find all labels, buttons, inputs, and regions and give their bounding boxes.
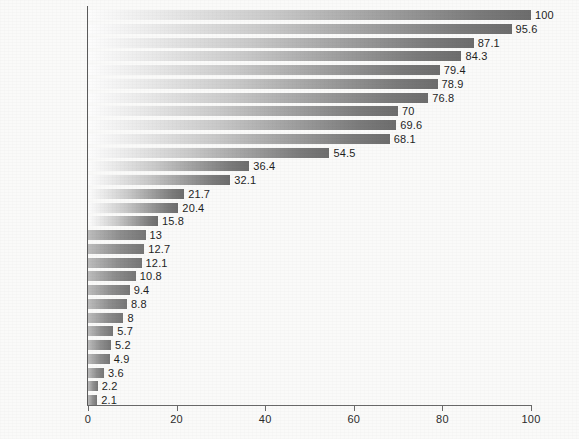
bar-value-label: 2.2 xyxy=(102,379,118,393)
bar xyxy=(88,368,104,378)
bar xyxy=(88,381,98,391)
bar-value-label: 8.8 xyxy=(131,297,147,311)
bar xyxy=(88,285,130,295)
bar xyxy=(88,93,428,103)
bar-value-label: 87.1 xyxy=(478,36,500,50)
x-tick-label: 20 xyxy=(170,413,183,425)
bar-value-label: 9.4 xyxy=(134,283,150,297)
bar xyxy=(88,175,230,185)
bar xyxy=(88,354,110,364)
bar-chart: USA100Switzerland95.6Hong Kong87.1Japan8… xyxy=(0,0,579,439)
bar xyxy=(88,161,249,171)
bar-value-label: 8 xyxy=(127,311,133,325)
bar-value-label: 70 xyxy=(402,104,415,118)
bar-value-label: 79.4 xyxy=(444,63,466,77)
x-tick-mark xyxy=(531,406,532,411)
x-tick-mark xyxy=(442,406,443,411)
x-tick-label: 40 xyxy=(259,413,272,425)
bar-value-label: 2.1 xyxy=(101,393,117,407)
bar xyxy=(88,24,512,34)
bar-value-label: 5.2 xyxy=(115,338,131,352)
bar-value-label: 20.4 xyxy=(182,201,204,215)
bar xyxy=(88,148,329,158)
bar-value-label: 54.5 xyxy=(333,146,355,160)
bar xyxy=(88,51,461,61)
bar-value-label: 3.6 xyxy=(108,366,124,380)
bar xyxy=(88,313,123,323)
bar-value-label: 4.9 xyxy=(114,352,130,366)
bar-value-label: 36.4 xyxy=(253,159,275,173)
bar xyxy=(88,271,136,281)
bar xyxy=(88,65,440,75)
x-tick-mark xyxy=(354,406,355,411)
bar-value-label: 95.6 xyxy=(516,22,538,36)
bar-value-label: 69.6 xyxy=(400,118,422,132)
bar xyxy=(88,395,97,405)
bar xyxy=(88,10,531,20)
bar xyxy=(88,244,144,254)
bar xyxy=(88,38,474,48)
bar xyxy=(88,230,146,240)
bar-value-label: 76.8 xyxy=(432,91,454,105)
bar xyxy=(88,340,111,350)
bar-value-label: 100 xyxy=(535,8,554,22)
bar xyxy=(88,189,184,199)
bar-value-label: 12.1 xyxy=(146,256,168,270)
bar xyxy=(88,326,113,336)
bar-value-label: 13 xyxy=(150,228,163,242)
plot-area: USA100Switzerland95.6Hong Kong87.1Japan8… xyxy=(0,0,579,439)
bar xyxy=(88,258,142,268)
bar xyxy=(88,216,158,226)
bar xyxy=(88,299,127,309)
bar-value-label: 15.8 xyxy=(162,214,184,228)
bar xyxy=(88,134,390,144)
bar xyxy=(88,120,396,130)
bar-value-label: 10.8 xyxy=(140,269,162,283)
x-axis-line xyxy=(87,405,532,406)
bar xyxy=(88,106,398,116)
bar-value-label: 68.1 xyxy=(394,132,416,146)
bar-value-label: 78.9 xyxy=(442,77,464,91)
x-tick-mark xyxy=(265,406,266,411)
bar xyxy=(88,203,178,213)
x-tick-mark xyxy=(88,406,89,411)
bar xyxy=(88,79,438,89)
bar-value-label: 21.7 xyxy=(188,187,210,201)
bar-value-label: 32.1 xyxy=(234,173,256,187)
bar-value-label: 84.3 xyxy=(465,49,487,63)
x-tick-label: 100 xyxy=(522,413,541,425)
x-tick-label: 0 xyxy=(85,413,91,425)
bar-value-label: 5.7 xyxy=(117,324,133,338)
x-tick-mark xyxy=(177,406,178,411)
x-tick-label: 80 xyxy=(436,413,449,425)
x-tick-label: 60 xyxy=(347,413,360,425)
bar-value-label: 12.7 xyxy=(148,242,170,256)
